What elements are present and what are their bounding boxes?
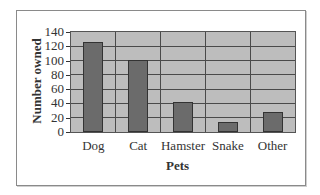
gridline-horizontal [71,60,295,61]
bar-hamster [173,102,193,132]
y-tick-label: 20 [34,111,64,124]
bar-cat [128,60,148,132]
x-tick-label: Other [243,138,303,154]
y-tick-label: 80 [34,68,64,81]
gridline-horizontal [71,89,295,90]
plot-area [70,31,296,133]
bar-dog [83,42,103,132]
gridline-horizontal [71,46,295,47]
gridline-vertical [160,32,161,132]
y-tick-label: 120 [34,39,64,52]
x-axis-title: Pets [166,158,189,174]
y-tick-label: 0 [34,125,64,138]
y-tick-label: 40 [34,96,64,109]
gridline-vertical [250,32,251,132]
bar-snake [218,122,238,132]
y-tick-label: 140 [34,25,64,38]
y-tick-label: 60 [34,82,64,95]
gridline-vertical [205,32,206,132]
bar-other [263,112,283,132]
y-tick-label: 100 [34,54,64,67]
gridline-vertical [115,32,116,132]
gridline-horizontal [71,74,295,75]
